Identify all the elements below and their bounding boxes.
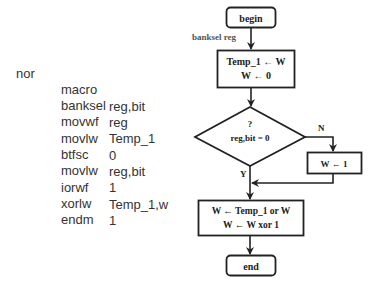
process-box-set-one: W ← 1 (308, 153, 362, 174)
arrow-no (305, 137, 333, 151)
banksel-label: banksel reg (192, 32, 237, 42)
svg-text:begin: begin (239, 13, 263, 24)
process-box-init: Temp_1 ← W W ← 0 (218, 51, 295, 88)
begin-terminal: begin (227, 8, 276, 28)
svg-text:reg,bit = 0: reg,bit = 0 (230, 133, 270, 143)
yes-label: Y (240, 169, 247, 179)
svg-text:W ← 1: W ← 1 (321, 159, 348, 169)
arrow-merge (252, 174, 333, 183)
svg-text:W ← 0: W ← 0 (241, 70, 271, 81)
svg-text:Temp_1 ← W: Temp_1 ← W (227, 56, 286, 67)
svg-text:end: end (243, 261, 259, 272)
end-terminal: end (227, 256, 276, 276)
svg-text:W ← W xor 1: W ← W xor 1 (223, 220, 279, 230)
svg-text:W ← Temp_1 or W: W ← Temp_1 or W (212, 206, 291, 216)
process-box-compute: W ← Temp_1 or W W ← W xor 1 (199, 201, 304, 236)
flowchart: begin banksel reg Temp_1 ← W W ← 0 ? reg… (0, 0, 377, 290)
svg-text:?: ? (248, 119, 253, 129)
decision-diamond: ? reg,bit = 0 (195, 107, 305, 166)
no-label: N (318, 123, 325, 133)
